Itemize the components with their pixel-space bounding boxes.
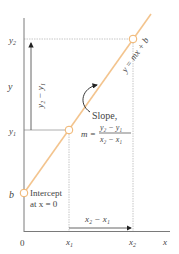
slope-title: Slope, xyxy=(92,110,117,121)
y1-tick-label: y1 xyxy=(8,126,16,137)
slope-curved-arrow xyxy=(83,85,97,112)
slope-denominator: x₂ − x₁ xyxy=(99,135,122,144)
intercept-label-line1: Intercept xyxy=(30,188,62,198)
slope-numerator: y₂ − y₁ xyxy=(99,123,122,132)
linear-equation-diagram: y2 y1 y b 0 x1 x2 x y₂ − y₁ x₂ − x₁ y = … xyxy=(0,0,179,254)
x1-tick-label: x1 xyxy=(65,237,73,248)
x-axis-label: x xyxy=(162,237,167,247)
y-axis-label: y xyxy=(7,81,13,92)
intercept-point xyxy=(20,189,28,197)
y2-tick-label: y2 xyxy=(8,35,16,46)
run-label: x₂ − x₁ xyxy=(84,214,110,224)
intercept-label-line2: at x = 0 xyxy=(30,199,58,209)
slope-m-label: m = xyxy=(81,129,96,139)
rise-label: y₂ − y₁ xyxy=(35,83,45,109)
point-1 xyxy=(65,126,73,134)
point-2 xyxy=(129,35,137,43)
b-label: b xyxy=(9,189,14,200)
x2-tick-label: x2 xyxy=(128,237,136,248)
origin-label: 0 xyxy=(20,238,25,248)
